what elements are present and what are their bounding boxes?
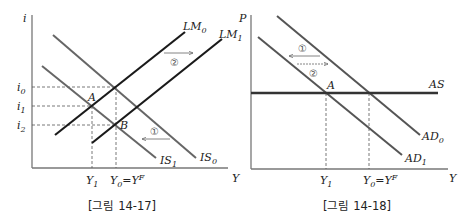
lm0-label: LM0: [182, 20, 207, 35]
lm1-label: LM1: [218, 28, 243, 43]
ad1-label: AD1: [404, 152, 427, 167]
as-label: AS: [428, 78, 445, 91]
x-axis-label: Y: [232, 172, 241, 185]
annotation-1: ①: [298, 43, 307, 54]
y-axis-label: P: [238, 12, 247, 25]
ad0-label: AD0: [421, 130, 444, 145]
annotation-2: ②: [309, 68, 318, 79]
annotation-1: ①: [150, 126, 159, 137]
tick-y1: Y1: [320, 174, 332, 189]
tick-y1: Y1: [86, 174, 98, 189]
ad0-curve: [277, 16, 420, 135]
figure-14-18: P Y AS AD0 AD1 A Y1 Y0=YF ① ② [그림 14-18]: [238, 12, 458, 213]
caption-14-17: [그림 14-17]: [88, 199, 156, 213]
point-b: B: [119, 119, 128, 132]
tick-y0-yf: Y0=YF: [110, 173, 145, 189]
is1-label: IS1: [159, 154, 177, 169]
guide-lines: [326, 93, 369, 169]
y-axis-label: i: [23, 12, 27, 25]
tick-i0: i0: [17, 81, 26, 96]
tick-i1: i1: [17, 100, 26, 115]
x-axis-label: Y: [449, 172, 458, 185]
guide-lines: [32, 87, 116, 168]
figure-14-17: i Y LM0 LM1 IS0 IS1 i0 i1 i2 Y1 Y0=YF A …: [17, 12, 243, 213]
ad1-curve: [258, 37, 402, 155]
point-a: A: [326, 79, 335, 92]
annotation-2: ②: [170, 57, 179, 68]
tick-y0-yf: Y0=YF: [363, 173, 398, 189]
tick-i2: i2: [17, 119, 26, 134]
diagram-canvas: i Y LM0 LM1 IS0 IS1 i0 i1 i2 Y1 Y0=YF A …: [0, 0, 473, 219]
is0-label: IS0: [199, 151, 217, 166]
caption-14-18: [그림 14-18]: [323, 199, 391, 213]
is0-curve: [53, 35, 196, 158]
point-a: A: [87, 91, 96, 104]
is1-curve: [42, 66, 156, 158]
